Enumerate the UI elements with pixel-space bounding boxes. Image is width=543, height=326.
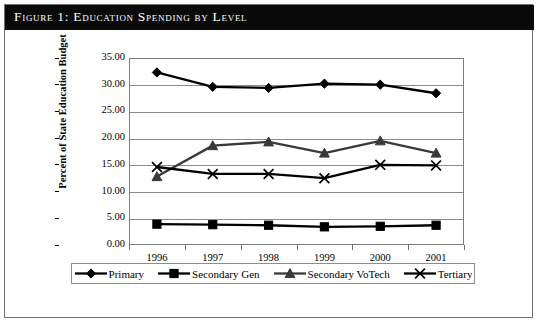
data-point-diamond — [320, 79, 329, 88]
y-axis-tick-mark — [55, 218, 59, 219]
y-axis-tick-label: 35.00 — [79, 51, 125, 62]
data-point-diamond — [264, 83, 273, 92]
data-point-square — [432, 221, 440, 229]
y-axis-tick-label: 25.00 — [79, 104, 125, 115]
legend-item-secondary-gen: Secondary Gen — [157, 267, 260, 280]
figure-caption-bar: Figure 1: Education Spending by Level — [5, 5, 534, 30]
y-axis-tick-label: 20.00 — [79, 131, 125, 142]
y-axis-tick-mark — [55, 191, 59, 192]
x-axis-tick-mark — [408, 245, 409, 250]
legend-swatch-diamond-icon — [74, 267, 108, 280]
legend-swatch-square-icon — [157, 267, 191, 280]
data-point-square — [209, 221, 217, 229]
data-point-square — [264, 221, 272, 229]
data-point-diamond — [152, 68, 161, 77]
chart-legend: PrimarySecondary GenSecondary VoTechTert… — [71, 263, 475, 284]
x-axis-tick-label: 1997 — [183, 252, 243, 263]
data-point-diamond — [376, 80, 385, 89]
x-axis-tick-mark — [185, 245, 186, 250]
y-axis-tick-label: 10.00 — [79, 185, 125, 196]
y-axis-tick-mark — [55, 164, 59, 165]
legend-swatch-triangle-icon — [273, 267, 307, 280]
data-point-square — [320, 223, 328, 231]
x-axis-tick-mark — [352, 245, 353, 250]
x-axis-tick-label: 1996 — [127, 252, 187, 263]
data-point-square — [170, 269, 178, 277]
data-point-triangle — [375, 136, 385, 145]
legend-swatch-x-icon — [403, 267, 437, 280]
legend-label: Secondary VoTech — [308, 268, 390, 280]
x-axis-tick-mark — [129, 245, 130, 250]
legend-label: Secondary Gen — [192, 268, 260, 280]
legend-items: PrimarySecondary GenSecondary VoTechTert… — [72, 264, 474, 283]
legend-item-tertiary: Tertiary — [403, 267, 473, 280]
y-axis-tick-mark — [55, 138, 59, 139]
series-line — [157, 165, 436, 178]
figure-caption-text: Figure 1: Education Spending by Level — [14, 9, 247, 25]
y-axis-tick-label: 15.00 — [79, 158, 125, 169]
y-axis-tick-mark — [55, 245, 59, 246]
x-axis-tick-mark — [297, 245, 298, 250]
legend-item-primary: Primary — [74, 267, 144, 280]
data-point-diamond — [86, 269, 95, 278]
series-plot — [129, 58, 464, 245]
figure-container: Figure 1: Education Spending by Level Pe… — [4, 4, 533, 318]
x-axis-tick-label: 2000 — [350, 252, 410, 263]
y-axis-tick-mark — [55, 111, 59, 112]
y-axis-tick-label: 30.00 — [79, 78, 125, 89]
y-axis-tick-mark — [55, 58, 59, 59]
data-point-diamond — [431, 89, 440, 98]
y-axis-tick-label: 0.00 — [79, 238, 125, 249]
x-axis-tick-label: 2001 — [406, 252, 466, 263]
y-axis-tick-labels: 0.005.0010.0015.0020.0025.0030.0035.00 — [75, 58, 125, 245]
data-point-triangle — [152, 172, 162, 181]
y-axis-tick-mark — [55, 84, 59, 85]
y-axis-tick-label: 5.00 — [79, 211, 125, 222]
x-axis-tick-label: 1999 — [294, 252, 354, 263]
x-axis-tick-mark — [464, 245, 465, 250]
x-axis-tick-label: 1998 — [239, 252, 299, 263]
legend-item-secondary-votech: Secondary VoTech — [273, 267, 390, 280]
series-markers — [152, 136, 441, 181]
data-point-square — [153, 220, 161, 228]
data-point-square — [376, 222, 384, 230]
legend-label: Primary — [109, 268, 144, 280]
x-axis-tick-mark — [241, 245, 242, 250]
legend-label: Tertiary — [438, 268, 473, 280]
data-point-diamond — [208, 82, 217, 91]
series-line — [157, 72, 436, 93]
series-line — [157, 224, 436, 227]
